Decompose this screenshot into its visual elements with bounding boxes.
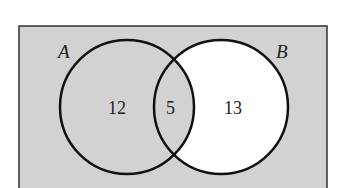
venn-diagram: A B 12 5 13 [0, 0, 345, 188]
intersection-count: 5 [166, 98, 175, 118]
set-a-label: A [56, 41, 70, 62]
set-a-only-count: 12 [108, 98, 126, 118]
set-b-only-count: 13 [224, 98, 242, 118]
set-b-label: B [276, 41, 288, 62]
